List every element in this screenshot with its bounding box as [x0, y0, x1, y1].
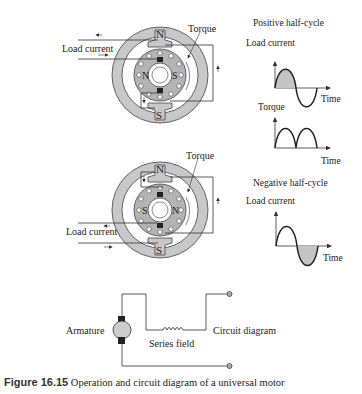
series-field-label: Series field [149, 338, 194, 349]
armature-brush-bottom [118, 337, 125, 344]
brush-top [157, 192, 163, 197]
pole-label-s: S [156, 109, 162, 121]
circuit-diagram-label: Circuit diagram [213, 325, 276, 336]
terminal-top [227, 292, 232, 297]
negative-lobe-shaded [297, 246, 318, 266]
rotor-pole-left: N [142, 70, 149, 81]
negative-half-cycle-graph: Negative half-cycle Load current Time [246, 178, 343, 266]
pole-label-s: S [156, 244, 162, 256]
armature-label: Armature [66, 325, 105, 336]
rotor-pole-left: S [142, 205, 148, 216]
torque-rectified-wave [275, 129, 317, 149]
negative-time-axis: Time [323, 253, 343, 263]
brush-top [157, 57, 163, 62]
figure-caption: Figure 16.15 Operation and circuit diagr… [4, 376, 285, 388]
rotor-pole-right: N [172, 205, 179, 216]
torque-label-top: Torque [188, 23, 217, 34]
torque-label-bottom: Torque [186, 150, 215, 161]
positive-lobe-shaded [275, 69, 296, 88]
brush-bottom [157, 88, 163, 93]
diagram-canvas: N S N S Load current Torque [0, 0, 362, 394]
armature-symbol [113, 321, 131, 339]
figure-number: Figure 16.15 [4, 376, 68, 388]
torque-label: Torque [258, 102, 285, 112]
load-current-label-top: Load current [62, 43, 114, 54]
rotor-pole-right: S [172, 70, 178, 81]
negative-title: Negative half-cycle [253, 178, 328, 188]
positive-half-cycle-graphs: Positive half-cycle Load current Time To… [246, 18, 341, 166]
positive-title: Positive half-cycle [253, 18, 324, 28]
torque-time-axis: Time [321, 156, 341, 166]
pole-label-n: N [156, 163, 164, 175]
figure-caption-text: Operation and circuit diagram of a unive… [71, 377, 285, 388]
motor-top: N S N S Load current Torque [62, 23, 218, 123]
load-current-label-bottom: Load current [66, 226, 118, 237]
terminal-bottom [227, 364, 232, 369]
circuit-diagram: Armature Series field Circuit diagram [66, 292, 276, 369]
pole-label-n: N [156, 28, 164, 40]
positive-current-label: Load current [246, 38, 295, 48]
series-field-coil [163, 328, 183, 331]
brush-bottom [157, 223, 163, 228]
positive-time-axis: Time [321, 94, 341, 104]
motor-bottom: N S S N Load current Torque [66, 150, 218, 258]
negative-current-label: Load current [246, 196, 295, 206]
